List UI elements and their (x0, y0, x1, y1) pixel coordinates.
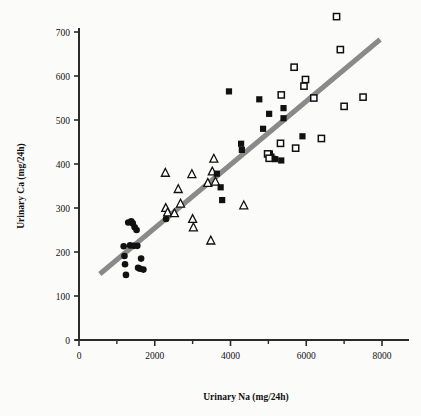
data-point-group-4-open-square (293, 145, 299, 151)
data-point-group-2-open-triangle (210, 154, 218, 162)
data-point-group-2-open-triangle (174, 185, 182, 193)
data-point-group-4-open-square (266, 155, 272, 161)
x-axis-title: Urinary Na (mg/24h) (203, 392, 289, 403)
data-point-group-3-filled-square (214, 171, 220, 177)
data-point-group-3-filled-square (218, 184, 224, 190)
y-axis-title: Urinary Ca (mg/24h) (16, 143, 27, 229)
data-point-group-2-open-triangle (189, 215, 197, 223)
data-point-group-4-open-square (311, 95, 317, 101)
data-point-group-4-open-square (360, 94, 366, 100)
y-tick-label-300: 300 (56, 204, 71, 214)
data-point-group-3-filled-square (280, 115, 286, 121)
data-point-group-2-open-triangle (161, 168, 169, 176)
data-point-group-1-filled-circle (121, 253, 128, 260)
data-point-group-4-open-square (301, 83, 307, 89)
data-point-group-1-filled-circle (120, 243, 127, 250)
x-tick-label-6000: 6000 (297, 351, 316, 361)
data-point-group-4-open-square (278, 92, 284, 98)
x-tick-label-2000: 2000 (145, 351, 164, 361)
data-point-group-3-filled-square (278, 157, 284, 163)
y-tick-label-400: 400 (56, 160, 71, 170)
data-point-group-4-open-square (337, 47, 343, 53)
data-point-group-2-open-triangle (207, 236, 215, 244)
data-point-group-3-filled-square (226, 88, 232, 94)
data-point-group-3-filled-square (256, 96, 262, 102)
data-point-group-1-filled-circle (138, 255, 145, 262)
data-point-group-2-open-triangle (188, 170, 196, 178)
data-point-group-4-open-square (318, 135, 324, 141)
y-tick-label-200: 200 (56, 248, 71, 258)
scatter-plot-figure: 010020030040050060070002000400060008000U… (0, 0, 421, 416)
data-point-group-2-open-triangle (240, 201, 248, 209)
data-point-group-4-open-square (341, 103, 347, 109)
data-point-group-1-filled-circle (123, 272, 130, 279)
plot-canvas: 010020030040050060070002000400060008000U… (0, 0, 421, 416)
x-tick-label-4000: 4000 (221, 351, 240, 361)
data-point-group-3-filled-square (239, 147, 245, 153)
data-point-group-3-filled-square (260, 126, 266, 132)
x-tick-label-8000: 8000 (373, 351, 392, 361)
data-point-group-4-open-square (277, 140, 283, 146)
data-point-group-3-filled-square (238, 141, 244, 147)
data-point-group-3-filled-square (299, 133, 305, 139)
x-tick-label-0: 0 (77, 351, 82, 361)
data-point-group-1-filled-circle (133, 227, 140, 234)
y-tick-label-500: 500 (56, 116, 71, 126)
y-tick-label-600: 600 (56, 72, 71, 82)
data-point-group-1-filled-circle (134, 243, 141, 250)
data-point-group-4-open-square (291, 64, 297, 70)
data-point-group-3-filled-square (266, 111, 272, 117)
y-tick-label-0: 0 (65, 336, 70, 346)
y-tick-label-700: 700 (56, 28, 71, 38)
data-point-group-1-filled-circle (122, 261, 129, 268)
data-point-group-4-open-square (333, 14, 339, 20)
y-tick-label-100: 100 (56, 292, 71, 302)
data-point-group-3-filled-square (280, 105, 286, 111)
data-point-group-3-filled-square (219, 197, 225, 203)
regression-line (100, 39, 380, 274)
data-point-group-3-filled-square (272, 156, 278, 162)
data-point-group-2-open-triangle (189, 223, 197, 231)
data-point-group-1-filled-circle (163, 216, 170, 223)
data-point-group-1-filled-circle (140, 266, 147, 273)
data-point-group-4-open-square (302, 76, 308, 82)
